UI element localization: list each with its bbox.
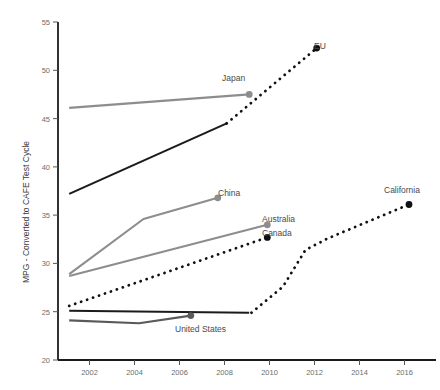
series-endpoint-marker-united-states xyxy=(187,312,194,319)
series-line-eu xyxy=(69,123,227,193)
x-tick-label-2002: 2002 xyxy=(81,368,98,377)
series-label-eu: EU xyxy=(314,41,326,51)
series-label-layer: EUJapanChinaAustraliaCanadaCaliforniaUni… xyxy=(175,41,420,334)
chart-container: MPG - Converted to CAFE Test Cycle 55 50… xyxy=(0,0,440,390)
x-tick-label-2008: 2008 xyxy=(216,368,233,377)
y-tick-label-45: 45 xyxy=(42,115,50,124)
series-label-japan: Japan xyxy=(222,73,245,83)
series-label-australia: Australia xyxy=(262,214,295,224)
series-line-united-states-standard xyxy=(69,311,249,313)
y-tick-label-20: 20 xyxy=(42,356,50,365)
x-tick-label-2016: 2016 xyxy=(396,368,413,377)
series-line-canada xyxy=(69,237,267,306)
series-line-australia xyxy=(69,225,267,276)
x-tick-label-2014: 2014 xyxy=(351,368,368,377)
line-chart: MPG - Converted to CAFE Test Cycle 55 50… xyxy=(0,0,440,390)
y-tick-label-40: 40 xyxy=(42,163,50,172)
y-tick-label-50: 50 xyxy=(42,66,50,75)
y-tick-label-55: 55 xyxy=(42,18,50,27)
x-tick-label-2004: 2004 xyxy=(126,368,143,377)
x-tick-label-2010: 2010 xyxy=(261,368,278,377)
y-axis-title: MPG - Converted to CAFE Test Cycle xyxy=(21,141,31,283)
series-label-california: California xyxy=(384,185,420,195)
x-tick-label-2006: 2006 xyxy=(171,368,188,377)
series-label-united-states: United States xyxy=(175,324,226,334)
y-tick-label-35: 35 xyxy=(42,211,50,220)
series-label-canada: Canada xyxy=(262,228,292,238)
series-line-eu-projection xyxy=(227,48,317,123)
series-endpoint-marker-california-projection xyxy=(406,201,413,208)
y-tick-label-30: 30 xyxy=(42,259,50,268)
x-tick-label-2012: 2012 xyxy=(306,368,323,377)
series-label-china: China xyxy=(218,188,240,198)
y-tick-label-25: 25 xyxy=(42,308,50,317)
series-layer xyxy=(69,45,412,324)
series-line-japan xyxy=(69,94,249,108)
series-line-united-states xyxy=(69,316,191,324)
series-endpoint-marker-japan xyxy=(246,91,253,98)
